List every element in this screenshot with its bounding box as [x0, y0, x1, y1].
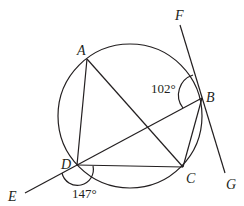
point-label-E: E: [7, 189, 17, 204]
point-label-C: C: [186, 171, 196, 186]
point-label-D: D: [60, 157, 71, 172]
geometry-diagram: A B C D E F G 102° 147°: [0, 0, 244, 206]
line-EB: [25, 98, 202, 193]
tangent-line-FG: [180, 25, 225, 173]
point-label-F: F: [174, 8, 184, 23]
angle-arc-B: [178, 75, 193, 108]
angle-label-102: 102°: [151, 81, 176, 96]
segment-AD: [77, 59, 87, 165]
point-label-G: G: [226, 177, 236, 192]
segment-BC: [183, 98, 202, 167]
segment-AC: [87, 59, 183, 167]
point-label-A: A: [76, 43, 86, 58]
point-label-B: B: [206, 90, 215, 105]
angle-label-147: 147°: [72, 186, 97, 201]
